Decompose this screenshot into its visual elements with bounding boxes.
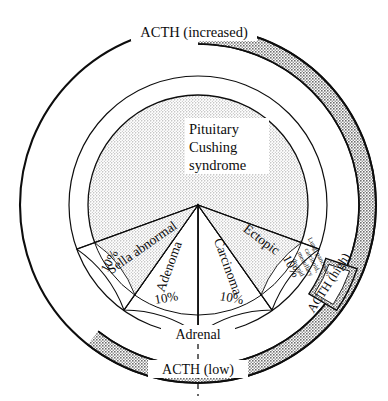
acth-increased-label: ACTH (increased)	[140, 24, 248, 41]
acth-low-label: ACTH (low)	[162, 362, 234, 378]
center-label-line-2: Cushing	[189, 139, 237, 155]
acth-increased-label-group: ACTH (increased)	[131, 22, 257, 41]
center-label-line-1: Pituitary	[189, 121, 240, 137]
center-label-line-3: syndrome	[189, 157, 246, 173]
center-label-group: Pituitary Cushing syndrome	[185, 118, 269, 174]
cushing-syndrome-diagram: ACTH (increased) Pituitary Cushing syndr…	[0, 0, 388, 401]
adrenal-label-group: Adrenal	[161, 325, 235, 343]
acth-low-label-group: ACTH (low)	[148, 360, 248, 378]
adrenal-label: Adrenal	[175, 327, 220, 342]
